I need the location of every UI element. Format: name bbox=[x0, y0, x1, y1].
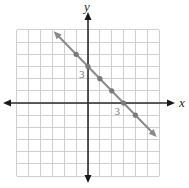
axes: x y bbox=[3, 0, 185, 183]
data-series bbox=[54, 31, 157, 137]
x-intercept-label: 3 bbox=[115, 105, 121, 117]
x-axis-right-arrow-icon bbox=[167, 100, 175, 107]
data-line bbox=[57, 35, 153, 134]
data-point bbox=[74, 52, 79, 57]
data-point bbox=[97, 76, 102, 81]
y-axis-label: y bbox=[82, 0, 90, 14]
data-point bbox=[121, 100, 126, 105]
data-point bbox=[133, 113, 138, 118]
coordinate-plane: x y 3 3 bbox=[0, 0, 189, 188]
x-axis-label: x bbox=[178, 95, 185, 110]
y-axis-bottom-arrow-icon bbox=[85, 175, 92, 183]
data-point bbox=[85, 64, 90, 69]
y-intercept-label: 3 bbox=[79, 68, 85, 80]
x-axis-left-arrow-icon bbox=[3, 100, 11, 107]
data-point bbox=[109, 88, 114, 93]
